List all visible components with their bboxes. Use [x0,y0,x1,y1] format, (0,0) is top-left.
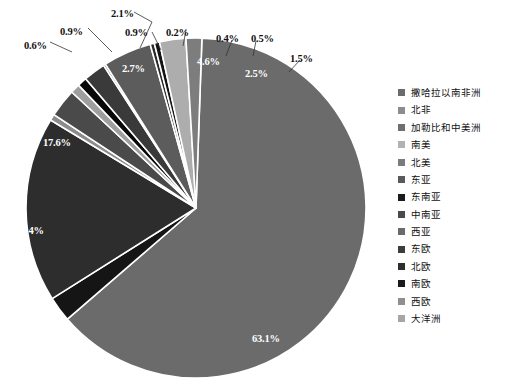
legend-item[interactable]: 大洋洲 [398,310,514,327]
legend-item[interactable]: 东欧 [398,241,514,258]
legend-color-swatch [398,124,405,131]
legend-color-swatch [398,194,405,201]
slice-percent-callout: 2.1% [111,8,134,19]
legend-item[interactable]: 南美 [398,136,514,153]
legend-item-label: 北美 [411,158,431,168]
legend-item[interactable]: 北非 [398,101,514,118]
legend-item-label: 东南亚 [411,192,441,202]
legend-item[interactable]: 撒哈拉以南非洲 [398,84,514,101]
slice-percent-label: 2.5% [245,68,268,79]
slice-percent-label: 2.4% [21,225,44,236]
slice-percent-label: 2.7% [122,63,145,74]
legend-item[interactable]: 加勒比和中美洲 [398,119,514,136]
leader-line [50,42,72,52]
legend-item-label: 西欧 [411,297,431,307]
legend-item[interactable]: 北美 [398,154,514,171]
legend-item-label: 撒哈拉以南非洲 [411,88,481,98]
pie-slices-group [26,38,366,378]
slice-percent-callout: 0.6% [24,40,47,51]
leader-line [88,28,112,52]
legend-color-swatch [398,263,405,270]
legend-color-swatch [398,211,405,218]
chart-legend: 撒哈拉以南非洲北非加勒比和中美洲南美北美东亚东南亚中南亚西亚东欧北欧南欧西欧大洋… [398,84,514,327]
legend-item[interactable]: 北欧 [398,258,514,275]
legend-color-swatch [398,141,405,148]
slice-percent-callout: 1.5% [290,53,313,64]
leader-line [134,12,152,22]
slice-percent-callout: 0.2% [166,27,189,38]
legend-item-label: 北非 [411,105,431,115]
legend-item-label: 加勒比和中美洲 [411,123,481,133]
slice-percent-callout: 0.5% [251,33,274,44]
legend-item-label: 南欧 [411,279,431,289]
slice-percent-label: 63.1% [252,333,280,344]
legend-color-swatch [398,89,405,96]
legend-item[interactable]: 东亚 [398,171,514,188]
legend-color-swatch [398,107,405,114]
legend-item-label: 西亚 [411,227,431,237]
slice-percent-callout: 0.9% [60,26,83,37]
legend-item[interactable]: 西亚 [398,223,514,240]
slice-percent-callout: 0.9% [125,27,148,38]
legend-color-swatch [398,315,405,322]
legend-color-swatch [398,228,405,235]
legend-color-swatch [398,176,405,183]
legend-item[interactable]: 南欧 [398,275,514,292]
legend-color-swatch [398,246,405,253]
legend-item-label: 北欧 [411,262,431,272]
slice-percent-callout: 0.4% [216,33,239,44]
legend-item[interactable]: 中南亚 [398,206,514,223]
legend-item-label: 南美 [411,140,431,150]
legend-color-swatch [398,298,405,305]
slice-percent-label: 17.6% [43,137,71,148]
legend-item-label: 大洋洲 [411,314,441,324]
legend-item-label: 东亚 [411,175,431,185]
legend-item-label: 东欧 [411,244,431,254]
pie-chart-figure: 0.6%0.9%2.1%0.9%0.2%0.4%0.5%1.5%2.7%4.6%… [0,0,514,390]
legend-color-swatch [398,280,405,287]
legend-item[interactable]: 东南亚 [398,188,514,205]
slice-percent-label: 4.6% [197,56,220,67]
figure-caption [0,383,514,390]
legend-item[interactable]: 西欧 [398,293,514,310]
legend-item-label: 中南亚 [411,210,441,220]
legend-color-swatch [398,159,405,166]
